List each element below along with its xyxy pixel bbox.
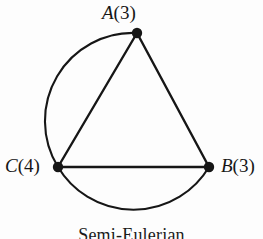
semi-eulerian-graph-figure: A(3) C(4) B(3) Semi-Eulerian bbox=[0, 0, 263, 239]
vertex-label-c: C(4) bbox=[5, 156, 40, 175]
vertex-c-degree: (4) bbox=[18, 155, 40, 176]
vertex-a-dot bbox=[132, 28, 142, 38]
vertex-label-b: B(3) bbox=[221, 156, 255, 175]
vertex-a-name: A bbox=[102, 2, 114, 23]
edge-c-b-arc bbox=[58, 167, 209, 210]
vertex-b-name: B bbox=[221, 155, 233, 176]
graph-canvas bbox=[0, 0, 263, 239]
vertex-b-dot bbox=[204, 162, 214, 172]
vertex-c-name: C bbox=[5, 155, 18, 176]
edge-a-c-arc bbox=[45, 33, 137, 167]
edge-a-b bbox=[137, 33, 209, 167]
vertex-b-degree: (3) bbox=[233, 155, 255, 176]
vertex-label-a: A(3) bbox=[102, 3, 136, 22]
figure-caption: Semi-Eulerian bbox=[0, 226, 263, 239]
edge-a-c bbox=[58, 33, 137, 167]
vertex-c-dot bbox=[53, 162, 63, 172]
vertex-a-degree: (3) bbox=[114, 2, 136, 23]
